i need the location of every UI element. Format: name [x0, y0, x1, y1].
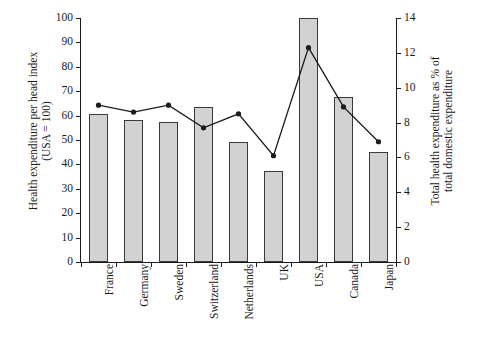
right-tick	[396, 157, 401, 158]
right-tick-label: 12	[404, 47, 416, 58]
line-marker	[341, 104, 346, 109]
line-marker	[166, 103, 171, 108]
line-marker	[201, 125, 206, 130]
left-tick-label: 20	[62, 207, 74, 218]
left-axis-title-line1: Health expenditure per head index	[27, 52, 39, 210]
x-tick	[396, 262, 397, 267]
right-tick-label: 4	[404, 186, 410, 197]
left-tick-label: 40	[62, 158, 74, 169]
left-tick-label: 10	[62, 232, 74, 243]
right-tick-label: 6	[404, 151, 410, 162]
right-tick	[396, 18, 401, 19]
chart-figure: Health expenditure per head index (USA =…	[0, 0, 478, 342]
x-axis-label: Netherlands	[243, 264, 255, 320]
x-axis-label: UK	[278, 264, 290, 281]
right-tick-label: 10	[404, 82, 416, 93]
right-tick	[396, 53, 401, 54]
x-axis-label: Japan	[383, 264, 395, 290]
line-marker	[306, 45, 311, 50]
line-marker	[131, 110, 136, 115]
left-tick-label: 50	[62, 134, 74, 145]
right-tick-label: 14	[404, 12, 416, 23]
right-tick	[396, 88, 401, 89]
left-tick-label: 60	[62, 110, 74, 121]
left-tick-label: 70	[62, 85, 74, 96]
right-axis-title: Total health expenditure as % of total d…	[429, 6, 455, 256]
line-marker	[376, 139, 381, 144]
left-tick-label: 80	[62, 61, 74, 72]
left-axis-title: Health expenditure per head index (USA =…	[27, 6, 53, 256]
left-tick-label: 0	[67, 256, 73, 267]
left-tick-label: 90	[62, 36, 74, 47]
right-tick	[396, 123, 401, 124]
right-tick-label: 2	[404, 221, 410, 232]
left-tick-label: 100	[56, 12, 73, 23]
x-axis-labels: FranceGermanySwedenSwitzerlandNetherland…	[80, 264, 395, 342]
x-axis-label: Germany	[138, 264, 150, 307]
line-marker	[271, 153, 276, 158]
x-axis-label: Switzerland	[208, 264, 220, 319]
x-axis-label: Canada	[348, 264, 360, 298]
right-tick	[396, 227, 401, 228]
line-marker	[96, 103, 101, 108]
right-axis-title-line1: Total health expenditure as % of	[429, 57, 441, 206]
line-series	[81, 18, 396, 262]
x-axis-label: France	[103, 264, 115, 295]
line-path	[99, 48, 379, 156]
right-axis-title-line2: total domestic expenditure	[442, 70, 454, 192]
x-axis-label: Sweden	[173, 264, 185, 300]
left-axis-title-line2: (USA = 100)	[40, 101, 52, 161]
x-axis-label: USA	[313, 264, 325, 287]
right-tick-label: 0	[404, 256, 410, 267]
right-tick-label: 8	[404, 117, 410, 128]
plot-area: 0102030405060708090100 02468101214	[80, 18, 397, 263]
right-tick	[396, 192, 401, 193]
left-tick-label: 30	[62, 183, 74, 194]
line-marker	[236, 111, 241, 116]
